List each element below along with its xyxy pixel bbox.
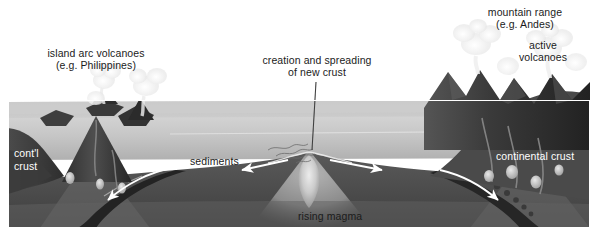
label-creation-spreading: creation and spreading of new crust (243, 55, 391, 78)
arc-magma-blob-1 (66, 172, 75, 184)
label-sediments: sediments (190, 156, 262, 168)
tectonics-diagram: island arc volcanoes (e.g. Philippines) … (0, 0, 590, 241)
mountain-line-2: (e.g. Andes) (461, 19, 589, 31)
creation-line-1: creation and spreading (243, 55, 391, 67)
label-continental-crust-right: continental crust (496, 151, 588, 163)
label-rising-magma: rising magma (298, 211, 388, 223)
label-island-arc-volcanoes: island arc volcanoes (e.g. Philippines) (18, 48, 174, 71)
label-active-volcanoes: active volcanoes (503, 40, 583, 63)
arc-magma-blob-2 (96, 179, 104, 190)
label-mountain-range: mountain range (e.g. Andes) (461, 7, 589, 30)
mountain-line-1: mountain range (461, 7, 589, 19)
label-continental-crust-left: cont'l crust (14, 147, 74, 172)
contl-line-1: cont'l (14, 147, 74, 160)
active-line-1: active (503, 40, 583, 52)
contl-line-2: crust (14, 160, 74, 173)
island-arc-line-2: (e.g. Philippines) (18, 60, 174, 72)
creation-line-2: of new crust (243, 67, 391, 79)
active-line-2: volcanoes (503, 52, 583, 64)
diagram-canvas (0, 0, 590, 241)
island-arc-line-1: island arc volcanoes (18, 48, 174, 60)
